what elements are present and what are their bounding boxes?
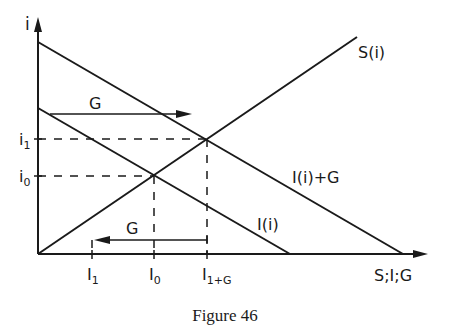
lower-g-label: G — [126, 219, 138, 238]
x-tick-label-I1: I1 — [87, 265, 99, 287]
curve-label-saving: S(i) — [358, 43, 385, 62]
y-tick-label-i1: i1 — [19, 130, 30, 152]
figure-caption: Figure 46 — [192, 306, 258, 325]
upper-g-label: G — [89, 94, 101, 113]
curve-label-investment: I(i) — [257, 215, 279, 234]
curve-label-investment-plus-g: I(i)+G — [292, 168, 339, 187]
y-tick-label-i0: i0 — [19, 167, 30, 189]
lower-g-arrowhead-icon — [94, 236, 110, 244]
curve-investment — [38, 108, 290, 254]
is-diagram: i S;I;G i1 i0 I1 I0 I1+G S(i) I(i)+G I(i… — [0, 0, 450, 336]
y-axis-arrow-icon — [34, 17, 42, 32]
upper-g-arrowhead-icon — [176, 110, 192, 118]
x-tick-label-I1G: I1+G — [202, 265, 231, 287]
curve-investment-plus-g — [38, 42, 403, 254]
y-axis-label: i — [25, 14, 30, 34]
x-tick-label-I0: I0 — [149, 265, 161, 287]
x-axis-label: S;I;G — [374, 266, 412, 285]
x-axis-arrow-icon — [413, 250, 428, 258]
